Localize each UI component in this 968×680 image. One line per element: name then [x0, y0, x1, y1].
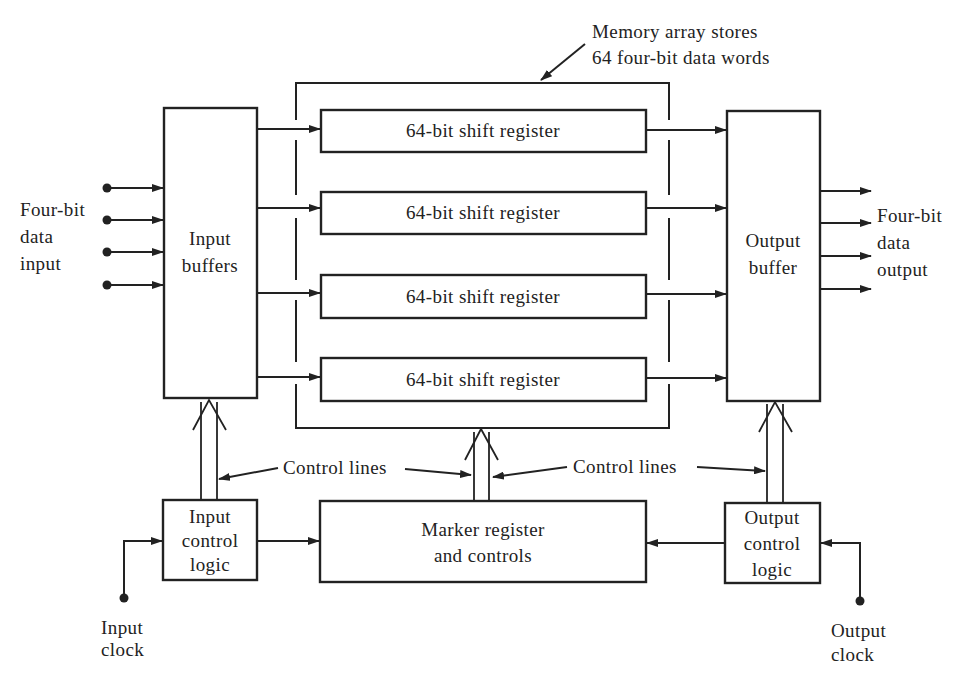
control-lines-pointer-arrow	[697, 467, 765, 471]
output-buffer-label-line2: buffer	[749, 257, 798, 278]
shift-register-label: 64-bit shift register	[406, 202, 560, 223]
shift-register-label: 64-bit shift register	[406, 120, 560, 141]
control-lines-pointer-arrow	[219, 468, 278, 479]
output-control-logic-block: Output control logic	[725, 503, 820, 583]
input-control-logic-label-line2: control	[182, 530, 239, 551]
marker-control-bus	[465, 429, 498, 501]
memory-array-annotation: Memory array stores 64 four-bit data wor…	[541, 21, 770, 80]
shift-register-0: 64-bit shift register	[321, 110, 646, 152]
input-to-register-arrows	[257, 129, 320, 377]
input-control-logic-label-line1: Input	[189, 506, 231, 527]
data-input-group: Four-bit data input	[20, 184, 163, 290]
input-buffers-block: Input buffers	[164, 108, 257, 398]
input-clock-group: Input clock	[101, 541, 162, 660]
shift-register-1: 64-bit shift register	[321, 192, 646, 234]
input-control-logic-block: Input control logic	[163, 500, 257, 580]
input-clock-label-line2: clock	[101, 639, 144, 660]
register-to-output-arrows	[646, 130, 726, 378]
output-clock-label-line1: Output	[831, 620, 887, 641]
output-buffer-label-line1: Output	[745, 230, 801, 251]
marker-register-label-line1: Marker register	[421, 519, 545, 540]
control-lines-pointer-arrow	[405, 469, 471, 475]
output-control-logic-label-line2: control	[744, 533, 801, 554]
data-output-label-line2: data	[877, 232, 910, 253]
input-buffers-label-line1: Input	[189, 228, 231, 249]
memory-array-pointer-arrow	[541, 44, 585, 80]
output-control-logic-label-line1: Output	[744, 507, 800, 528]
shift-register-label: 64-bit shift register	[406, 369, 560, 390]
control-lines-left-label: Control lines	[283, 457, 387, 478]
output-clock-arrow	[821, 543, 860, 601]
input-clock-label-line1: Input	[101, 617, 143, 638]
data-input-label-line2: data	[20, 226, 53, 247]
shift-register-3: 64-bit shift register	[321, 358, 646, 401]
data-input-label-line1: Four-bit	[20, 199, 85, 220]
control-lines-left: Control lines	[219, 457, 471, 479]
data-output-label-line1: Four-bit	[877, 205, 942, 226]
output-clock-group: Output clock	[821, 543, 887, 665]
marker-register-label-line2: and controls	[434, 545, 532, 566]
marker-register-block: Marker register and controls	[320, 501, 646, 582]
output-buffer-block: Output buffer	[727, 111, 820, 401]
control-lines-right: Control lines	[493, 456, 765, 477]
control-lines-right-label: Control lines	[573, 456, 677, 477]
data-output-label-line3: output	[877, 259, 928, 280]
shift-register-label: 64-bit shift register	[406, 286, 560, 307]
output-control-bus	[759, 402, 792, 503]
data-input-label-line3: input	[20, 253, 61, 274]
input-buffers-label-line2: buffers	[182, 255, 238, 276]
memory-array-label-line2: 64 four-bit data words	[592, 47, 770, 68]
shift-register-2: 64-bit shift register	[321, 275, 646, 318]
memory-array-label-line1: Memory array stores	[592, 21, 758, 42]
input-control-logic-label-line3: logic	[190, 554, 230, 575]
output-control-logic-label-line3: logic	[752, 559, 792, 580]
data-output-group: Four-bit data output	[820, 191, 942, 289]
input-control-bus	[193, 400, 226, 500]
control-lines-pointer-arrow	[493, 467, 567, 477]
output-clock-label-line2: clock	[831, 644, 874, 665]
fifo-memory-block-diagram: Memory array stores 64 four-bit data wor…	[0, 0, 968, 680]
input-clock-arrow	[124, 541, 162, 598]
